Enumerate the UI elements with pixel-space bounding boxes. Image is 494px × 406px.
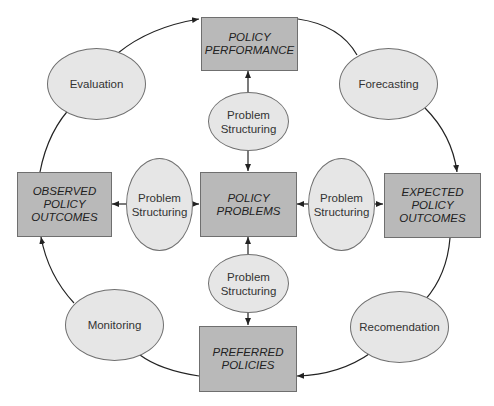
recommendation-label: Recomendation	[359, 320, 440, 334]
oval-monitoring: Monitoring	[65, 289, 164, 361]
box-expected-policy-outcomes: EXPECTED POLICY OUTCOMES	[384, 173, 481, 238]
arc-expected-to-recommendation	[425, 238, 450, 300]
oval-evaluation: Evaluation	[47, 48, 146, 120]
oval-forecasting: Forecasting	[339, 48, 438, 120]
policy-performance-label: POLICY PERFORMANCE	[205, 31, 294, 57]
oval-problem-structuring-bottom: Problem Structuring	[208, 254, 289, 313]
problem-structuring-bottom-label: Problem Structuring	[221, 270, 277, 298]
problem-structuring-top-label: Problem Structuring	[221, 108, 277, 136]
expected-outcomes-label: EXPECTED POLICY OUTCOMES	[399, 186, 465, 225]
arc-recommendation-to-preferred	[297, 352, 372, 376]
forecasting-label: Forecasting	[358, 77, 418, 91]
problem-structuring-right-label: Problem Structuring	[314, 191, 370, 219]
monitoring-label: Monitoring	[88, 318, 142, 332]
arc-monitoring-to-observed	[41, 237, 74, 303]
oval-problem-structuring-top: Problem Structuring	[208, 92, 289, 151]
policy-problems-label: POLICY PROBLEMS	[217, 192, 281, 218]
preferred-policies-label: PREFERRED POLICIES	[213, 346, 284, 372]
arc-evaluation-to-performance	[118, 19, 199, 53]
oval-problem-structuring-right: Problem Structuring	[308, 158, 375, 251]
box-preferred-policies: PREFERRED POLICIES	[199, 326, 297, 392]
box-policy-performance: POLICY PERFORMANCE	[201, 17, 298, 71]
oval-recommendation: Recomendation	[350, 291, 449, 363]
arc-preferred-to-monitoring	[140, 355, 199, 376]
problem-structuring-left-label: Problem Structuring	[132, 191, 188, 219]
arc-performance-to-forecasting	[298, 19, 357, 55]
box-observed-policy-outcomes: OBSERVED POLICY OUTCOMES	[17, 172, 112, 237]
evaluation-label: Evaluation	[70, 77, 124, 91]
box-policy-problems: POLICY PROBLEMS	[200, 172, 297, 237]
arc-forecasting-to-expected	[425, 108, 457, 172]
oval-problem-structuring-left: Problem Structuring	[126, 158, 193, 251]
observed-outcomes-label: OBSERVED POLICY OUTCOMES	[31, 185, 97, 224]
